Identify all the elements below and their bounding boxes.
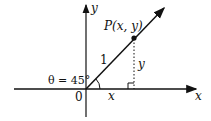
point-p xyxy=(131,35,136,40)
leg-x-label: x xyxy=(108,89,115,103)
x-axis-label: x xyxy=(195,89,202,103)
y-axis-label: y xyxy=(90,1,98,15)
right-angle-marker xyxy=(128,83,134,89)
angle-label: θ = 45° xyxy=(48,74,90,87)
point-label: P(x, y) xyxy=(103,19,143,33)
unit-circle-angle-diagram: y x 0 P(x, y) 1 θ = 45° x y xyxy=(0,0,211,121)
hypotenuse-label: 1 xyxy=(100,53,108,67)
angle-arc xyxy=(96,79,100,89)
leg-y-label: y xyxy=(137,57,145,71)
origin-label: 0 xyxy=(75,90,83,104)
